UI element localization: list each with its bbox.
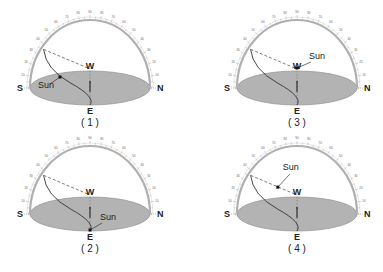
sun-icon — [296, 67, 299, 70]
sun-label: Sun — [100, 212, 116, 222]
diagram-stage: 1020304050607080908070605040302010SNWE( … — [0, 0, 383, 272]
altitude-tick-label: 30 — [29, 48, 33, 52]
altitude-tick-label: 10 — [228, 199, 232, 203]
altitude-tick-label: 70 — [319, 15, 323, 19]
altitude-tick-label: 90 — [88, 136, 92, 140]
altitude-tick-label: 90 — [295, 136, 299, 140]
altitude-tick-label: 10 — [362, 199, 366, 203]
altitude-tick-label: 50 — [45, 154, 49, 158]
altitude-tick-label: 20 — [231, 186, 235, 190]
altitude-tick-label: 20 — [359, 186, 363, 190]
altitude-tick-label: 30 — [354, 48, 358, 52]
east-label: E — [87, 106, 93, 116]
altitude-tick-label: 40 — [140, 37, 144, 41]
altitude-tick-label: 80 — [100, 11, 104, 15]
altitude-tick-label: 10 — [21, 73, 25, 77]
altitude-tick-label: 10 — [362, 73, 366, 77]
altitude-tick-label: 70 — [272, 15, 276, 19]
altitude-tick-label: 50 — [339, 154, 343, 158]
altitude-tick-label: 60 — [261, 20, 265, 24]
altitude-tick-label: 30 — [147, 174, 151, 178]
altitude-tick-label: 20 — [359, 60, 363, 64]
west-label: W — [86, 61, 95, 71]
altitude-tick-label: 50 — [252, 28, 256, 32]
altitude-tick-label: 60 — [54, 20, 58, 24]
altitude-tick-label: 20 — [24, 186, 28, 190]
altitude-tick-label: 10 — [228, 73, 232, 77]
altitude-tick-label: 70 — [65, 141, 69, 145]
altitude-tick-label: 40 — [347, 163, 351, 167]
altitude-tick-label: 40 — [243, 163, 247, 167]
north-label: N — [364, 209, 371, 219]
altitude-tick-label: 80 — [77, 11, 81, 15]
altitude-tick-label: 60 — [122, 146, 126, 150]
altitude-tick-label: 20 — [152, 60, 156, 64]
sun-icon — [89, 229, 92, 232]
altitude-tick-label: 60 — [122, 20, 126, 24]
altitude-tick-label: 20 — [152, 186, 156, 190]
altitude-tick-label: 70 — [272, 141, 276, 145]
altitude-tick-label: 70 — [65, 15, 69, 19]
north-label: N — [157, 209, 164, 219]
panel-caption: ( 4 ) — [288, 243, 306, 254]
west-label: W — [293, 187, 302, 197]
panel-caption: ( 1 ) — [81, 117, 99, 128]
celestial-sphere-diagrams: 1020304050607080908070605040302010SNWE( … — [0, 0, 383, 272]
panel-caption: ( 3 ) — [288, 117, 306, 128]
altitude-tick-label: 50 — [45, 28, 49, 32]
south-label: S — [224, 209, 230, 219]
altitude-tick-label: 40 — [140, 163, 144, 167]
panel-caption: ( 2 ) — [81, 243, 99, 254]
altitude-tick-label: 90 — [295, 10, 299, 14]
altitude-tick-label: 90 — [88, 10, 92, 14]
altitude-tick-label: 60 — [54, 146, 58, 150]
panel-2: 1020304050607080908070605040302010SNWE( … — [17, 136, 164, 254]
altitude-tick-label: 80 — [284, 11, 288, 15]
altitude-tick-label: 40 — [36, 163, 40, 167]
altitude-tick-label: 80 — [77, 137, 81, 141]
altitude-tick-label: 10 — [155, 73, 159, 77]
sun-label: Sun — [309, 51, 325, 61]
panel-3: 1020304050607080908070605040302010SNWE( … — [224, 10, 371, 128]
altitude-tick-label: 30 — [29, 174, 33, 178]
altitude-tick-label: 80 — [284, 137, 288, 141]
altitude-tick-label: 80 — [307, 11, 311, 15]
altitude-tick-label: 60 — [329, 146, 333, 150]
altitude-tick-label: 50 — [132, 28, 136, 32]
altitude-tick-label: 20 — [231, 60, 235, 64]
north-label: N — [157, 83, 164, 93]
altitude-tick-label: 80 — [100, 137, 104, 141]
altitude-tick-label: 80 — [307, 137, 311, 141]
east-label: E — [87, 232, 93, 242]
sun-icon — [59, 76, 62, 79]
sun-leader-line — [278, 174, 290, 187]
altitude-tick-label: 10 — [21, 199, 25, 203]
altitude-tick-label: 30 — [236, 48, 240, 52]
altitude-tick-label: 30 — [354, 174, 358, 178]
altitude-tick-label: 60 — [261, 146, 265, 150]
altitude-tick-label: 10 — [155, 199, 159, 203]
altitude-tick-label: 50 — [339, 28, 343, 32]
altitude-tick-label: 20 — [24, 60, 28, 64]
altitude-tick-label: 40 — [347, 37, 351, 41]
south-label: S — [17, 209, 23, 219]
altitude-tick-label: 70 — [112, 141, 116, 145]
south-label: S — [224, 83, 230, 93]
altitude-tick-label: 70 — [319, 141, 323, 145]
altitude-tick-label: 30 — [147, 48, 151, 52]
altitude-tick-label: 40 — [36, 37, 40, 41]
west-label: W — [86, 187, 95, 197]
altitude-tick-label: 30 — [236, 174, 240, 178]
altitude-tick-label: 50 — [132, 154, 136, 158]
panel-4: 1020304050607080908070605040302010SNWE( … — [224, 136, 371, 254]
altitude-tick-label: 70 — [112, 15, 116, 19]
panel-1: 1020304050607080908070605040302010SNWE( … — [17, 10, 164, 128]
north-label: N — [364, 83, 371, 93]
sun-label: Sun — [283, 162, 299, 172]
sun-label: Sun — [38, 80, 54, 90]
altitude-tick-label: 50 — [252, 154, 256, 158]
south-label: S — [17, 83, 23, 93]
altitude-tick-label: 60 — [329, 20, 333, 24]
east-label: E — [294, 106, 300, 116]
altitude-tick-label: 40 — [243, 37, 247, 41]
